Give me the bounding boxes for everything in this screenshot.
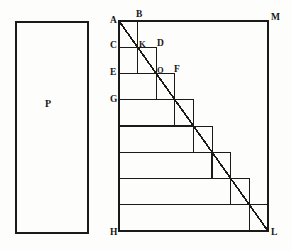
label-d: D — [157, 39, 164, 49]
label-c: C — [110, 41, 117, 51]
label-a: A — [110, 16, 117, 26]
label-p: P — [45, 99, 51, 109]
label-k: K — [139, 40, 146, 49]
label-o: O — [157, 66, 164, 75]
label-g: G — [110, 95, 117, 105]
label-b: B — [136, 10, 142, 20]
figure-root: ABCKDEOFGHLM P — [0, 0, 292, 250]
rectangle-p-shape — [16, 22, 88, 233]
label-h: H — [110, 228, 117, 238]
rectangle-p-outline — [16, 22, 88, 233]
label-m: M — [271, 13, 280, 23]
geometry-plate — [0, 0, 292, 250]
label-l: L — [271, 228, 277, 238]
label-f: F — [174, 65, 180, 75]
label-e: E — [110, 68, 116, 78]
